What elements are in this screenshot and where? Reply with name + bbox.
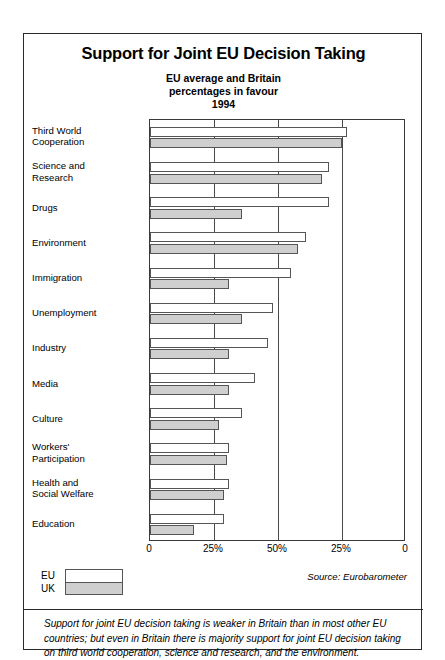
x-axis: 025%50%25%0 [149, 543, 405, 559]
category-label-8: Culture [32, 413, 136, 425]
axis-tick-0: 0 [146, 543, 152, 554]
category-label-5: Unemployment [32, 307, 136, 319]
axis-tick-2: 50% [267, 543, 287, 554]
bar-uk-2 [150, 209, 242, 219]
category-label-0: Third World Cooperation [32, 125, 136, 148]
bar-eu-0 [150, 127, 347, 137]
category-label-1: Science and Research [32, 160, 136, 183]
subtitle-line-1: EU average and Britain [24, 72, 423, 85]
bar-uk-11 [150, 525, 194, 535]
bar-uk-1 [150, 174, 322, 184]
bar-uk-3 [150, 244, 298, 254]
chart-frame: Support for Joint EU Decision Taking EU … [23, 33, 422, 650]
subtitle-line-2: percentages in favour [24, 85, 423, 98]
bar-uk-10 [150, 490, 224, 500]
bar-eu-3 [150, 232, 306, 242]
chart-caption: Support for joint EU decision taking is … [44, 617, 406, 660]
source-note: Source: Eurobarometer [307, 571, 407, 582]
category-label-3: Environment [32, 237, 136, 249]
category-label-11: Education [32, 518, 136, 530]
bar-uk-9 [150, 455, 227, 465]
legend-item-eu: EU [41, 569, 123, 582]
category-labels: Third World CooperationScience and Resea… [24, 119, 144, 541]
category-label-6: Industry [32, 342, 136, 354]
category-label-2: Drugs [32, 202, 136, 214]
caption-divider [24, 609, 423, 610]
chart-subtitle: EU average and Britain percentages in fa… [24, 72, 423, 111]
legend-swatch-uk [65, 582, 123, 595]
bar-eu-8 [150, 408, 242, 418]
axis-tick-1: 25% [203, 543, 223, 554]
bar-eu-7 [150, 373, 255, 383]
legend-swatch-eu [65, 569, 123, 582]
bar-eu-6 [150, 338, 268, 348]
bar-uk-0 [150, 138, 342, 148]
subtitle-line-3: 1994 [24, 98, 423, 111]
axis-tick-4: 0 [402, 543, 408, 554]
bar-eu-9 [150, 443, 229, 453]
bar-uk-4 [150, 279, 229, 289]
legend-label-eu: EU [41, 569, 65, 582]
chart-title: Support for Joint EU Decision Taking [24, 44, 423, 63]
bar-uk-5 [150, 314, 242, 324]
category-label-9: Workers' Participation [32, 441, 136, 464]
bar-uk-6 [150, 349, 229, 359]
category-label-7: Media [32, 378, 136, 390]
bar-eu-4 [150, 268, 291, 278]
bar-eu-2 [150, 197, 329, 207]
axis-tick-3: 25% [331, 543, 351, 554]
bar-eu-5 [150, 303, 273, 313]
legend: EU UK [41, 569, 123, 595]
legend-label-uk: UK [41, 582, 65, 595]
bar-uk-8 [150, 420, 219, 430]
legend-item-uk: UK [41, 582, 123, 595]
bar-rows [150, 120, 404, 540]
bar-eu-11 [150, 514, 224, 524]
category-label-4: Immigration [32, 272, 136, 284]
bar-eu-10 [150, 479, 229, 489]
category-label-10: Health and Social Welfare [32, 477, 136, 500]
plot-area [149, 119, 405, 541]
bar-eu-1 [150, 162, 329, 172]
bar-uk-7 [150, 385, 229, 395]
